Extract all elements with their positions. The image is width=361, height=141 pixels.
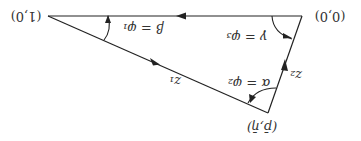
svg-text:z₂: z₂ [290, 68, 303, 83]
svg-text:(1,0): (1,0) [11, 9, 42, 24]
label-unit-vertex: (1,0) [11, 9, 42, 24]
label-alpha: α = φ₂ [228, 76, 270, 91]
svg-text:β = φ₁: β = φ₁ [123, 21, 165, 36]
edge-base [48, 13, 302, 20]
angle-arc-gamma [272, 16, 292, 39]
arrow-up-icon [281, 59, 288, 71]
angle-arc-beta [104, 15, 111, 40]
label-origin-vertex: (0,0) [315, 9, 346, 24]
svg-text:α = φ₂: α = φ₂ [228, 76, 270, 91]
arrow-down-right-icon [150, 58, 160, 66]
label-gamma: γ = φ₃ [226, 30, 267, 45]
label-z2: z₂ [290, 68, 303, 83]
label-beta: β = φ₁ [123, 21, 165, 36]
edge-z2 [268, 16, 302, 113]
triangle-diagram: (1,0) (0,0) (p̄,η̄) β = φ₁ γ = φ₃ α = φ₂… [0, 0, 361, 141]
arrow-left-icon [176, 13, 186, 20]
label-apex-vertex: (p̄,η̄) [247, 120, 277, 135]
svg-text:(p̄,η̄): (p̄,η̄) [247, 120, 277, 135]
label-z1: z₁ [169, 74, 182, 89]
svg-text:(0,0): (0,0) [315, 9, 346, 24]
svg-text:γ = φ₃: γ = φ₃ [226, 30, 267, 45]
svg-text:z₁: z₁ [169, 74, 182, 89]
